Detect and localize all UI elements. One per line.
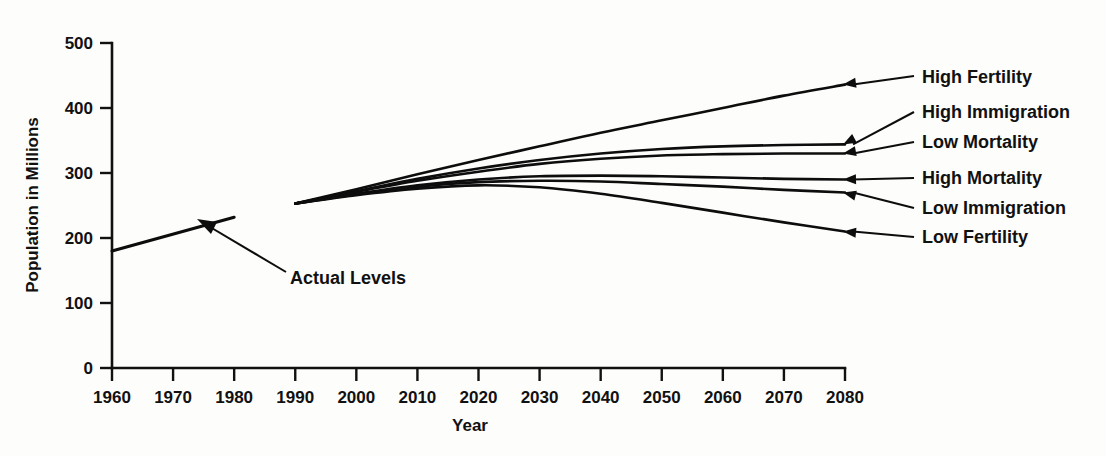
series-callouts-group: High FertilityHigh ImmigrationLow Mortal… [843, 67, 1070, 247]
callout-leader-high-immigration [853, 112, 914, 144]
callout-leader-high-fertility [853, 76, 914, 85]
series-paths-group [112, 85, 845, 251]
series-line-low-fertility [295, 185, 845, 231]
series-callout-label-low-mortality: Low Mortality [922, 132, 1038, 152]
x-tick-label-2000: 2000 [337, 388, 375, 407]
y-tick-label-400: 400 [65, 99, 93, 118]
callout-arrow-icon-high-immigration [843, 134, 857, 145]
y-axis-ticks [100, 43, 112, 368]
y-tick-label-500: 500 [65, 34, 93, 53]
series-callout-label-low-fertility: Low Fertility [922, 227, 1028, 247]
x-tick-label-2040: 2040 [582, 388, 620, 407]
x-tick-label-1970: 1970 [154, 388, 192, 407]
actual-levels-leader-line [205, 224, 286, 272]
x-tick-label-1980: 1980 [215, 388, 253, 407]
y-axis-title: Population in Millions [23, 117, 42, 293]
y-tick-label-0: 0 [84, 359, 93, 378]
x-tick-label-2070: 2070 [765, 388, 803, 407]
callout-leader-high-mortality [853, 178, 914, 180]
callout-leader-low-fertility [853, 232, 914, 238]
x-axis-title: Year [452, 416, 488, 435]
y-tick-label-300: 300 [65, 164, 93, 183]
x-tick-label-1960: 1960 [93, 388, 131, 407]
callout-arrow-icon-high-mortality [843, 174, 856, 184]
population-projection-chart: 0100200300400500 19601970198019902000201… [0, 0, 1106, 456]
x-tick-label-1990: 1990 [276, 388, 314, 407]
y-tick-label-100: 100 [65, 294, 93, 313]
x-tick-label-2030: 2030 [521, 388, 559, 407]
series-callout-label-high-immigration: High Immigration [922, 102, 1070, 122]
x-tick-label-2080: 2080 [826, 388, 864, 407]
x-tick-label-2010: 2010 [399, 388, 437, 407]
series-callout-label-high-fertility: High Fertility [922, 67, 1032, 87]
x-tick-label-2060: 2060 [704, 388, 742, 407]
x-axis-ticks [112, 368, 845, 381]
callout-arrow-icon-low-immigration [843, 191, 857, 201]
x-tick-label-2050: 2050 [643, 388, 681, 407]
callout-leader-low-mortality [853, 142, 914, 154]
series-callout-label-high-mortality: High Mortality [922, 168, 1042, 188]
actual-levels-annotation: Actual Levels [290, 268, 406, 288]
series-callout-label-low-immigration: Low Immigration [922, 198, 1066, 218]
x-axis-tick-labels: 1960197019801990200020102020203020402050… [93, 388, 864, 407]
callout-arrow-icon-high-fertility [843, 78, 857, 88]
chart-canvas: 0100200300400500 19601970198019902000201… [0, 0, 1106, 456]
x-tick-label-2020: 2020 [460, 388, 498, 407]
y-tick-label-200: 200 [65, 229, 93, 248]
callout-leader-low-immigration [853, 193, 914, 209]
y-axis-tick-labels: 0100200300400500 [65, 34, 93, 378]
